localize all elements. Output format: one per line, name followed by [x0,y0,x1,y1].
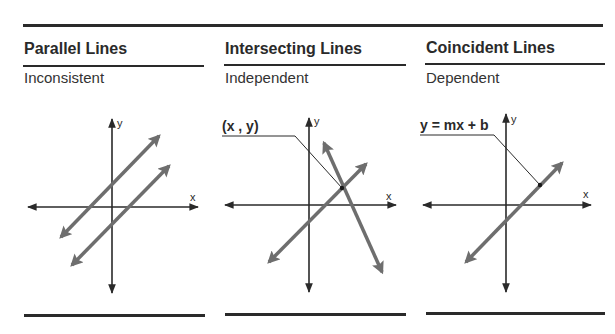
callout-label: y = mx + b [420,117,488,133]
y-axis-label: y [314,115,320,127]
line-1 [269,164,366,262]
point-on-line [538,183,542,187]
graphs: y x y x (x , y) y x y = mx + b [0,0,615,334]
callout-label: (x , y) [222,118,259,134]
intersection-point [340,186,344,190]
x-axis-label: x [386,190,392,202]
line-a [61,136,159,237]
line-2 [324,143,382,272]
graph-parallel: y x [28,117,198,293]
callout-leader [420,135,540,185]
y-axis-label: y [511,113,517,125]
x-axis-label: x [583,188,589,200]
graph-coincident: y x y = mx + b [420,113,591,292]
coincident-line [466,163,562,262]
line-b [72,166,169,265]
x-axis-label: x [190,191,196,203]
y-axis-label: y [117,117,123,129]
graph-intersecting: y x (x , y) [222,115,396,292]
